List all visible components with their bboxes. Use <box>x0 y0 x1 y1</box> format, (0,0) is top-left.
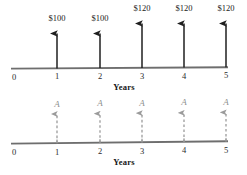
bottom-tick-label-0: 0 <box>12 147 16 157</box>
bottom-tick-label-1: 1 <box>55 147 59 157</box>
top-tick-label-5: 5 <box>224 70 228 80</box>
annuity-label-year-5: A <box>222 97 229 107</box>
bottom-tick-label-3: 3 <box>140 146 144 156</box>
bottom-axis-title: Years <box>113 157 135 167</box>
top-tick-label-0: 0 <box>12 72 16 82</box>
annuity-label-year-1: A <box>53 99 60 109</box>
cash-flow-amount-year-5: $120 <box>218 3 235 13</box>
cash-flow-amount-year-4: $120 <box>176 3 193 13</box>
annuity-label-year-4: A <box>180 97 187 107</box>
annuity-label-year-3: A <box>138 98 145 108</box>
cash-flow-svg: $100 $100 $120 $120 $120 0 1 2 3 4 5 Yea… <box>0 0 247 175</box>
bottom-tick-label-5: 5 <box>224 145 228 155</box>
top-tick-label-3: 3 <box>140 71 144 81</box>
top-axis-title: Years <box>113 82 135 92</box>
cash-flow-amount-year-2: $100 <box>92 13 109 23</box>
annuity-label-year-2: A <box>96 98 103 108</box>
bottom-tick-label-2: 2 <box>98 146 102 156</box>
cash-flow-amount-year-3: $120 <box>134 3 151 13</box>
top-tick-label-1: 1 <box>55 71 59 81</box>
top-tick-label-2: 2 <box>98 71 102 81</box>
cash-flow-figure: $100 $100 $120 $120 $120 0 1 2 3 4 5 Yea… <box>0 0 247 175</box>
cash-flow-amount-year-1: $100 <box>49 13 66 23</box>
